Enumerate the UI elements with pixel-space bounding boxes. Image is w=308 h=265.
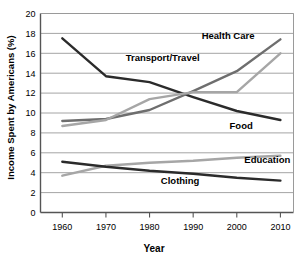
x-tick-label: 1960 [52,222,72,232]
x-tick-label: 2010 [270,222,290,232]
x-tick-label: 1980 [140,222,160,232]
x-axis-title: Year [0,243,308,254]
y-axis-title-text: Income Spent by Americans (%) [5,35,16,179]
y-tick-label: 20 [25,9,35,19]
x-tick-marks [62,213,280,218]
y-tick-label: 14 [25,69,35,79]
line-chart: 02468101214161820 1960197019801990200020… [0,0,308,265]
y-axis-title: Income Spent by Americans (%) [0,0,20,215]
x-tick-labels: 196019701980199020002010 [52,222,290,232]
x-tick-label: 2000 [227,222,247,232]
y-tick-label: 4 [30,168,35,178]
y-tick-label: 8 [30,128,35,138]
series-label-food: Food [230,120,253,131]
series-label-clothing: Clothing [161,175,200,186]
y-tick-label: 0 [30,208,35,218]
series-label-education: Education [244,154,290,165]
series-label-transport-travel: Transport/Travel [126,52,200,63]
y-tick-labels: 02468101214161820 [25,9,35,218]
y-tick-label: 12 [25,88,35,98]
y-tick-label: 10 [25,108,35,118]
y-tick-label: 2 [30,188,35,198]
y-tick-label: 18 [25,29,35,39]
x-tick-label: 1990 [183,222,203,232]
chart-canvas: 02468101214161820 1960197019801990200020… [0,0,308,265]
series-line-food [62,38,280,120]
y-tick-label: 16 [25,49,35,59]
y-tick-label: 6 [30,148,35,158]
x-tick-label: 1970 [96,222,116,232]
series-label-health-care: Health Care [202,30,255,41]
